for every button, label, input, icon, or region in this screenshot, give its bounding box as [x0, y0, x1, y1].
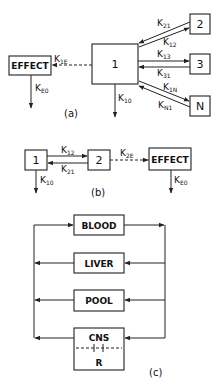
- caption-a: (a): [64, 108, 78, 119]
- rate-label-kn1: KN1: [158, 100, 172, 111]
- rate-label-k12-b: K12: [61, 145, 75, 156]
- rate-label-k1n: K1N: [163, 82, 177, 93]
- rate-label-k10-b: K10: [40, 175, 54, 186]
- rate-label-k31: K31: [157, 68, 171, 79]
- rate-label-k13: K13: [157, 49, 171, 60]
- compartment-2-label: 2: [197, 18, 204, 31]
- compartment-3-label: 3: [197, 58, 204, 71]
- effect-label-b: EFFECT: [151, 155, 189, 165]
- rate-label-k1e: K1E: [54, 54, 68, 65]
- blood-label: BLOOD: [81, 221, 116, 231]
- panel-c: BLOOD LIVER POOL CNS R (c): [34, 215, 165, 378]
- rate-label-k12: K12: [163, 37, 177, 48]
- caption-b: (b): [91, 187, 105, 198]
- compartment-1-label: 1: [112, 58, 119, 71]
- cns-label: CNS: [89, 333, 110, 343]
- effect-label-a: EFFECT: [11, 61, 49, 71]
- rate-label-ke0-a: KE0: [35, 83, 49, 94]
- rate-label-k10-a: K10: [118, 93, 132, 104]
- caption-c: (c): [149, 367, 162, 378]
- rate-label-ke0-b: KE0: [174, 175, 188, 186]
- compartment-n-label: N: [196, 100, 204, 113]
- cns-receptor-label: R: [96, 358, 103, 368]
- rate-label-k21: K21: [157, 18, 171, 29]
- panel-a: 1 2 3 N EFFECT K21 K12 K13 K31 K1N KN1 K…: [9, 14, 210, 119]
- rate-label-k21-b: K21: [61, 164, 75, 175]
- panel-b: 1 2 EFFECT K12 K21 K2E K10 KE0 (b): [25, 145, 191, 198]
- liver-label: LIVER: [84, 259, 113, 269]
- compartment-1-label-b: 1: [33, 154, 40, 167]
- compartment-2-label-b: 2: [96, 154, 103, 167]
- pk-diagram: 1 2 3 N EFFECT K21 K12 K13 K31 K1N KN1 K…: [0, 0, 220, 389]
- pool-label: POOL: [85, 296, 113, 306]
- rate-label-k2e: K2E: [120, 148, 134, 159]
